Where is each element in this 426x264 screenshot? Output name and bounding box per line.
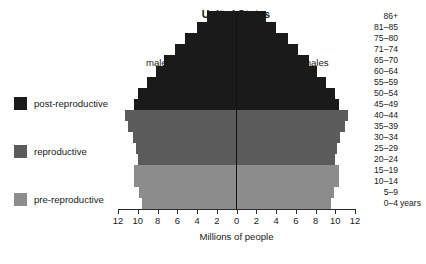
legend-item-reproductive: reproductive — [14, 145, 87, 158]
bar-female — [237, 77, 327, 88]
bar-male — [164, 55, 236, 66]
age-group-label: 75–80 — [358, 33, 398, 43]
x-axis-tick — [276, 209, 277, 214]
plot-area — [118, 11, 355, 209]
bar-male — [134, 176, 237, 187]
age-group-label: 35–39 — [358, 121, 398, 131]
age-group-label: 71–74 — [358, 44, 398, 54]
age-group-label: 45–49 — [358, 99, 398, 109]
x-axis-tick — [316, 209, 317, 214]
age-group-label: 30–34 — [358, 132, 398, 142]
bar-male — [138, 88, 237, 99]
x-axis-tick — [197, 209, 198, 214]
bar-male — [134, 165, 237, 176]
legend-item-post-reproductive: post-reproductive — [14, 97, 108, 110]
bar-male — [142, 198, 237, 209]
age-group-label: 55–59 — [358, 77, 398, 87]
x-axis-tick — [256, 209, 257, 214]
bar-female — [237, 11, 267, 22]
x-axis-tick — [355, 209, 356, 214]
bar-male — [133, 132, 237, 143]
bar-male — [134, 99, 237, 110]
age-group-label: 15–19 — [358, 165, 398, 175]
bar-female — [237, 44, 298, 55]
legend-label-pre-reproductive: pre-reproductive — [34, 194, 104, 205]
legend-label-reproductive: reproductive — [34, 146, 87, 157]
x-axis-tick — [296, 209, 297, 214]
bar-female — [237, 88, 336, 99]
bar-female — [237, 154, 336, 165]
bar-female — [237, 22, 276, 33]
legend-swatch-pre-reproductive — [14, 193, 27, 206]
x-axis-title: Millions of people — [118, 231, 355, 242]
age-group-label: 50–54 — [358, 88, 398, 98]
males-label: males — [146, 57, 172, 68]
x-axis-tick-label: 12 — [343, 215, 367, 226]
bar-female — [237, 132, 341, 143]
bar-female — [237, 33, 288, 44]
age-group-label: 81–85 — [358, 22, 398, 32]
legend-swatch-reproductive — [14, 145, 27, 158]
age-group-label: 5–9 — [358, 187, 398, 197]
x-axis-tick — [335, 209, 336, 214]
bar-female — [237, 165, 340, 176]
age-group-label: 86+ — [358, 11, 398, 21]
x-axis-tick — [138, 209, 139, 214]
age-group-label: 40–44 — [358, 110, 398, 120]
age-group-label: 10–14 — [358, 176, 398, 186]
legend-item-pre-reproductive: pre-reproductive — [14, 193, 104, 206]
bar-male — [136, 143, 237, 154]
x-axis-tick-labels: 12108642024681012 — [118, 215, 355, 229]
age-group-label: 25–29 — [358, 143, 398, 153]
x-axis-tick — [217, 209, 218, 214]
bar-male — [128, 121, 237, 132]
bar-female — [237, 187, 335, 198]
age-group-label: 20–24 — [358, 154, 398, 164]
x-axis-tick — [118, 209, 119, 214]
age-group-label: 60–64 — [358, 66, 398, 76]
bar-male — [138, 154, 237, 165]
females-label: females — [295, 57, 329, 68]
bar-female — [237, 143, 338, 154]
age-group-label: 0–4years — [358, 198, 398, 208]
age-group-labels: 86+81–8575–8071–7465–7060–6455–5950–5445… — [358, 11, 420, 209]
bar-male — [139, 187, 237, 198]
x-axis-tick — [237, 209, 238, 214]
age-unit-label: years — [400, 198, 426, 208]
x-axis-tick — [158, 209, 159, 214]
legend-label-post-reproductive: post-reproductive — [34, 98, 108, 109]
x-axis-tick — [177, 209, 178, 214]
bar-female — [237, 198, 332, 209]
bar-female — [237, 176, 340, 187]
bar-male — [185, 33, 236, 44]
bar-female — [237, 121, 346, 132]
bar-male — [197, 22, 236, 33]
age-group-label: 65–70 — [358, 55, 398, 65]
bar-male — [147, 77, 237, 88]
bar-male — [125, 110, 237, 121]
bar-female — [237, 110, 349, 121]
bar-female — [237, 99, 340, 110]
bar-male — [207, 11, 237, 22]
center-axis-line — [236, 11, 237, 209]
legend-swatch-post-reproductive — [14, 97, 27, 110]
bar-male — [175, 44, 236, 55]
